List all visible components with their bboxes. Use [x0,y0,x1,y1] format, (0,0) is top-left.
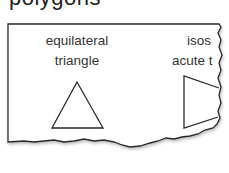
card-label-isosceles: isos acute t [160,31,220,71]
label-line1: isos [160,31,220,51]
label-line2: acute t [160,51,220,71]
card-label-equilateral: equilateral triangle [37,31,117,71]
torn-paper-diagram [0,0,229,173]
label-line2: triangle [37,51,117,71]
label-line1: equilateral [37,31,117,51]
